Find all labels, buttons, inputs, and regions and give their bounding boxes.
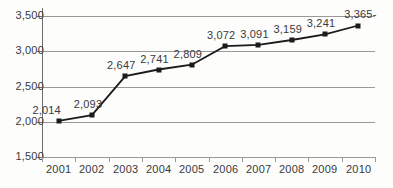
data-point-marker (256, 42, 261, 47)
data-point-label: 2,014 (32, 104, 61, 116)
data-point-marker (356, 23, 361, 28)
data-point-label: 2,093 (74, 98, 103, 110)
data-point-label: 2,647 (107, 59, 136, 71)
data-point-label: 3,241 (307, 17, 336, 29)
data-point-marker (289, 38, 294, 43)
data-point-marker (56, 118, 61, 123)
data-point-marker (323, 32, 328, 37)
data-point-marker (89, 113, 94, 118)
data-point-label: 3,072 (207, 29, 236, 41)
data-point-label: 3,365- (344, 8, 376, 20)
data-point-marker (223, 44, 228, 49)
data-point-marker (156, 67, 161, 72)
data-point-label: 2,809 (174, 48, 203, 60)
line-chart: 1,5002,0002,5003,0003,500 20012002200320… (0, 0, 393, 188)
data-point-label: 3,091 (240, 28, 269, 40)
data-point-marker (189, 62, 194, 67)
data-point-label: 3,159 (273, 23, 302, 35)
data-point-marker (123, 74, 128, 79)
data-point-label: 2,741 (140, 53, 169, 65)
